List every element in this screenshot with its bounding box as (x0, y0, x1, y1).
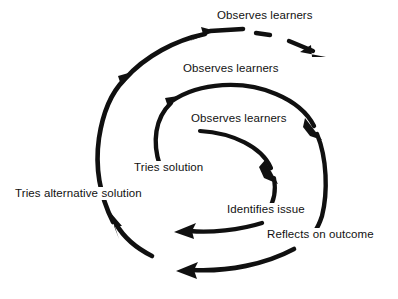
spiral-graphic (0, 0, 398, 299)
outer-arm-left-path (98, 80, 124, 222)
inner-arm-path (200, 131, 271, 168)
outer-arm-top-tip-path (210, 29, 243, 31)
middle-arm-right-path (315, 134, 326, 231)
label-observes-learners-outer: Observes learners (216, 9, 314, 22)
label-observes-learners-middle: Observes learners (182, 62, 280, 75)
label-reflects-on-outcome: Reflects on outcome (266, 228, 375, 241)
spiral-diagram: Observes learners Observes learners Obse… (0, 0, 398, 299)
outer-arm-lower-left-path (116, 224, 152, 256)
inner-arm (200, 131, 278, 210)
label-tries-alternative-solution: Tries alternative solution (14, 187, 143, 200)
label-identifies-issue: Identifies issue (226, 203, 306, 216)
continuation-arm (256, 33, 326, 57)
continuation-dash-path (256, 33, 270, 35)
middle-arm-bottom-path (190, 223, 262, 232)
label-observes-learners-inner: Observes learners (190, 112, 288, 125)
label-tries-solution: Tries solution (133, 161, 204, 174)
outer-arm-bottom-path (192, 249, 294, 270)
